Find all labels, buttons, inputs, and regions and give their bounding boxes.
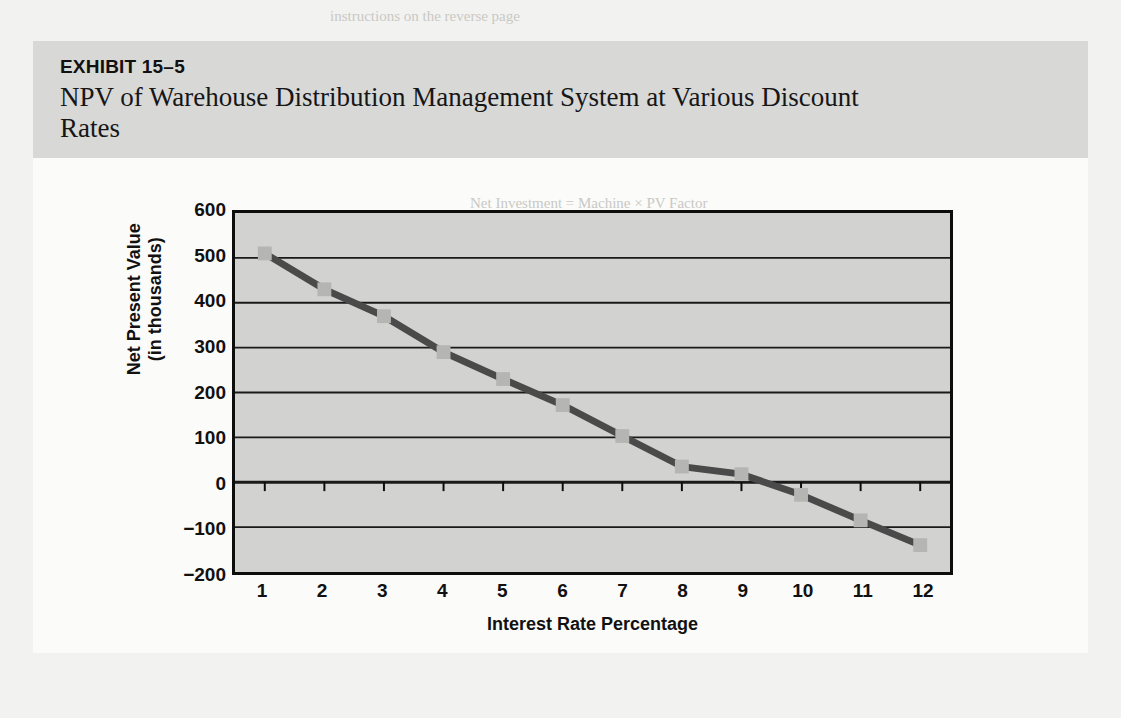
data-point-marker bbox=[496, 372, 510, 386]
y-tick-label: 400 bbox=[194, 290, 226, 312]
y-tick-label: −100 bbox=[183, 518, 226, 540]
x-tick-label: 2 bbox=[317, 580, 328, 602]
x-tick-label: 9 bbox=[737, 580, 748, 602]
y-tick-label: 0 bbox=[215, 473, 226, 495]
y-axis-tick-labels: 6005004003002001000−100−200 bbox=[153, 210, 226, 575]
x-tick-label: 7 bbox=[617, 580, 628, 602]
data-point-marker bbox=[258, 247, 272, 261]
exhibit-number: EXHIBIT 15–5 bbox=[60, 57, 1088, 78]
data-point-marker bbox=[794, 488, 808, 502]
x-tick-label: 5 bbox=[497, 580, 508, 602]
npv-series bbox=[235, 213, 950, 572]
x-axis-tick-labels: 123456789101112 bbox=[232, 580, 953, 606]
x-tick-label: 8 bbox=[677, 580, 688, 602]
y-axis-title-line1: Net Present Value bbox=[124, 179, 145, 419]
plot-area bbox=[232, 210, 953, 575]
exhibit-title: NPV of Warehouse Distribution Management… bbox=[60, 82, 880, 145]
data-point-marker bbox=[735, 467, 749, 481]
x-tick-label: 1 bbox=[257, 580, 268, 602]
x-tick-label: 3 bbox=[377, 580, 388, 602]
data-point-marker bbox=[317, 282, 331, 296]
y-tick-label: 600 bbox=[194, 199, 226, 221]
data-point-marker bbox=[437, 345, 451, 359]
data-point-marker bbox=[556, 398, 570, 412]
y-tick-label: 100 bbox=[194, 427, 226, 449]
data-point-marker bbox=[377, 309, 391, 323]
x-tick-label: 11 bbox=[853, 580, 873, 602]
x-tick-label: 12 bbox=[912, 580, 933, 602]
data-point-marker bbox=[675, 460, 689, 474]
y-tick-label: 300 bbox=[194, 336, 226, 358]
x-tick-label: 4 bbox=[437, 580, 448, 602]
data-point-marker bbox=[615, 429, 629, 443]
data-point-marker bbox=[913, 538, 927, 552]
npv-line bbox=[265, 253, 920, 545]
y-tick-label: 200 bbox=[194, 382, 226, 404]
y-tick-label: 500 bbox=[194, 245, 226, 267]
chart-zone: Net Present Value (in thousands) 6005004… bbox=[33, 158, 1088, 653]
data-point-marker bbox=[854, 514, 868, 528]
exhibit-header-band: EXHIBIT 15–5 NPV of Warehouse Distributi… bbox=[33, 41, 1088, 158]
y-tick-label: −200 bbox=[183, 564, 226, 586]
x-tick-label: 10 bbox=[792, 580, 813, 602]
x-axis-title: Interest Rate Percentage bbox=[232, 614, 953, 635]
x-tick-label: 6 bbox=[557, 580, 568, 602]
